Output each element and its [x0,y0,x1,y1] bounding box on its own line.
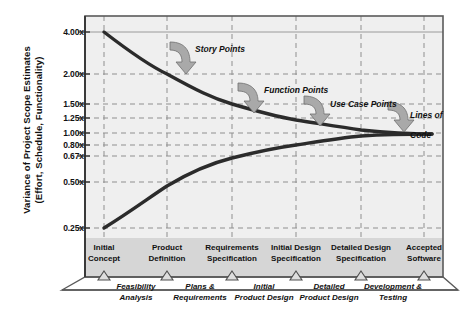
cone-of-uncertainty-chart: Variance of Project Scope Estimates (Eff… [0,0,460,314]
annotation-use-case-points: Use Case Points [330,99,397,109]
x-tick-line1: Accepted [387,243,460,254]
x-tick-label-initial-design-specification: Initial Design Specification [259,243,333,264]
x-tick-line2: Definition [130,254,204,265]
x-tick-line1: Requirements [195,243,269,254]
x-tick-line2: Specification [195,254,269,265]
annotation-lines-of-code: Lines of Code [410,100,443,140]
x-tick-line1: Initial Design [259,243,333,254]
phase-line2: Testing [351,293,435,304]
x-tick-label-requirements-specification: Requirements Specification [195,243,269,264]
annotation-lines-of-code-line1: Lines of [410,110,443,120]
x-tick-line1: Product [130,243,204,254]
x-tick-label-product-definition: Product Definition [130,243,204,264]
phase-label-development-testing: Development & Testing [351,282,435,303]
phase-line1: Development & [351,282,435,293]
x-tick-line2: Specification [259,254,333,265]
annotation-story-points: Story Points [195,44,245,54]
x-tick-label-accepted-software: Accepted Software [387,243,460,264]
annotation-lines-of-code-line2: Code [410,130,431,140]
annotation-function-points: Function Points [264,85,328,95]
x-tick-line2: Software [387,254,460,265]
